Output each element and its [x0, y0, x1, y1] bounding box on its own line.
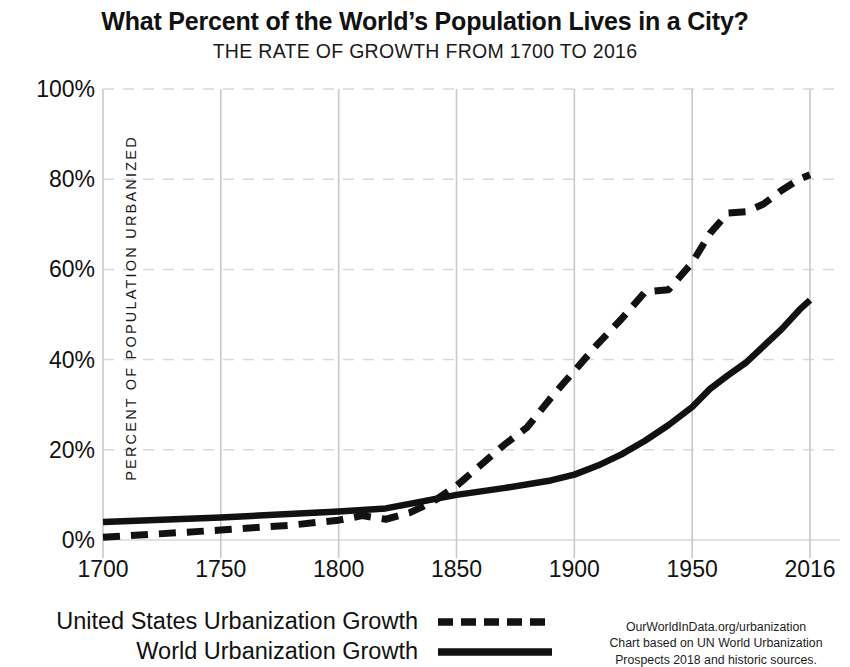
legend-swatch-dashed-icon — [436, 617, 554, 627]
legend-item-world: World Urbanization Growth — [24, 638, 554, 665]
x-tick-label: 1850 — [431, 556, 482, 583]
x-tick-label: 1800 — [313, 556, 364, 583]
x-tick-label: 1700 — [77, 556, 128, 583]
legend-label-united-states: United States Urbanization Growth — [56, 608, 418, 635]
y-axis-title-text: PERCENT OF POPULATION URBANIZED — [123, 135, 139, 481]
x-tick-label: 1950 — [667, 556, 718, 583]
source-line-1: OurWorldInData.org/urbanization — [588, 619, 844, 635]
legend-swatch-solid-icon — [436, 647, 554, 657]
x-tick-label: 2016 — [784, 556, 835, 583]
y-axis-title: PERCENT OF POPULATION URBANIZED — [118, 108, 144, 508]
x-tick-label: 1750 — [195, 556, 246, 583]
legend-item-united-states: United States Urbanization Growth — [24, 608, 554, 635]
source-credit: OurWorldInData.org/urbanization Chart ba… — [588, 619, 844, 667]
x-tick-label: 1900 — [549, 556, 600, 583]
source-line-2: Chart based on UN World Urbanization — [588, 635, 844, 651]
source-line-3: Prospects 2018 and historic sources. — [588, 652, 844, 667]
urbanization-chart: What Percent of the World’s Population L… — [0, 0, 850, 667]
legend-label-world: World Urbanization Growth — [136, 638, 418, 665]
plot-area: 0%20%40%60%80%100% 170017501800185019001… — [0, 0, 850, 600]
